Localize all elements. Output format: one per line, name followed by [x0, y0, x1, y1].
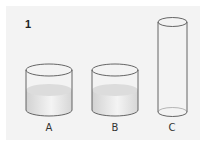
- label-c: C: [169, 122, 176, 133]
- cylinder-c: C: [158, 18, 187, 134]
- cylinders-diagram: 1 A B C: [0, 0, 206, 146]
- figure-number: 1: [25, 18, 31, 30]
- cylinder-b: B: [92, 64, 138, 133]
- cylinder-a: A: [26, 64, 72, 133]
- label-a: A: [46, 122, 53, 133]
- figure-frame: 1 A B C: [0, 0, 206, 146]
- label-b: B: [112, 122, 119, 133]
